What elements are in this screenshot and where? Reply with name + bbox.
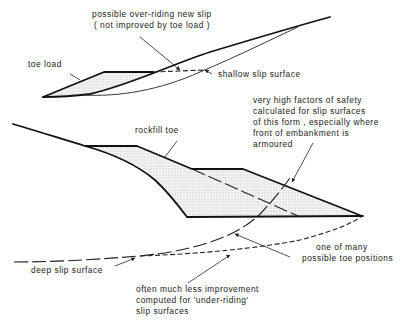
safety-label-1: very high factors of safety xyxy=(253,95,362,105)
safety-leader xyxy=(292,143,313,182)
deep-slip-label: deep slip surface xyxy=(31,265,103,275)
toe-positions-label-2: possible toe positions xyxy=(302,253,393,263)
toe-load-label: toe load xyxy=(28,59,62,69)
overriding-leader xyxy=(140,37,180,70)
underriding-label-3: slip surfaces xyxy=(136,306,189,316)
toe-load-fill xyxy=(43,72,153,97)
shallow-slip-leader xyxy=(205,70,212,74)
rockfill-toe-fill xyxy=(85,146,360,217)
bottom-figure: rockfill toe very high factors of safety… xyxy=(13,95,393,316)
deep-slip-leader xyxy=(115,258,135,266)
top-figure: possible over-riding new slip ( not impr… xyxy=(28,9,330,97)
rockfill-base xyxy=(187,216,363,217)
toe-load-leader xyxy=(70,74,80,80)
toe-positions-leader xyxy=(235,234,290,257)
slip-surface-diagram: possible over-riding new slip ( not impr… xyxy=(0,0,411,323)
safety-label-4: front of embankment is xyxy=(253,128,349,138)
overriding-label-2: ( not improved by toe load ) xyxy=(94,20,210,30)
underriding-leader xyxy=(188,255,230,283)
overriding-label-1: possible over-riding new slip xyxy=(92,9,212,19)
shallow-slip-label: shallow slip surface xyxy=(218,69,301,79)
safety-label-5: armoured xyxy=(253,139,293,149)
rockfill-toe-label: rockfill toe xyxy=(135,125,179,135)
safety-label-3: of this form , especially where xyxy=(253,117,379,127)
toe-positions-label-1: one of many xyxy=(316,242,368,252)
underriding-label-2: computed for 'under-riding' xyxy=(136,295,249,305)
underriding-label-1: often much less improvement xyxy=(136,284,259,294)
safety-label-2: calculated for slip surfaces xyxy=(253,106,366,116)
rockfill-leader xyxy=(165,141,177,157)
